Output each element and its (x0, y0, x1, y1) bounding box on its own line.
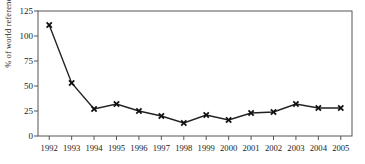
x-tick-label: 1992 (41, 144, 58, 153)
x-tick-label: 2003 (287, 144, 304, 153)
x-tick-label: 2002 (265, 144, 282, 153)
x-tick-label: 1996 (130, 144, 147, 153)
x-tick-label: 1993 (63, 144, 80, 153)
x-tick-label: 2000 (220, 144, 237, 153)
x-tick-label: 1994 (85, 144, 102, 153)
x-tick-label: 2004 (310, 144, 327, 153)
x-tick-label: 2001 (242, 144, 259, 153)
x-tick-label: 2005 (332, 144, 349, 153)
x-axis-tick-labels: 1992199319941995199619971998199920002001… (0, 0, 365, 164)
chart-container: % of world reference price 0 25 50 75 10… (0, 0, 365, 164)
x-tick-label: 1997 (153, 144, 170, 153)
x-tick-label: 1998 (175, 144, 192, 153)
x-tick-label: 1995 (108, 144, 125, 153)
x-tick-label: 1999 (198, 144, 215, 153)
